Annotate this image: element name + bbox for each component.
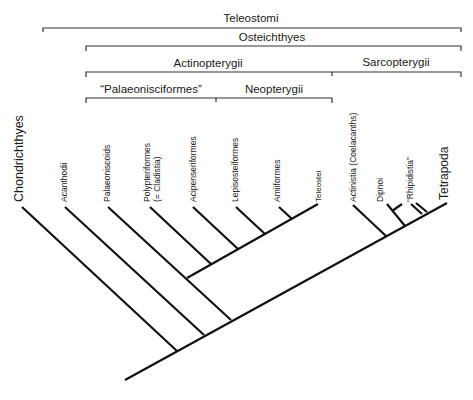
branch-actinistia — [353, 205, 386, 236]
bracket-actinopterygii-sarcopterygii — [86, 72, 461, 77]
branch-lepisosteiformes — [236, 207, 265, 234]
taxon-tetrapoda: Tetrapoda — [437, 146, 451, 200]
branch-amiiformes — [279, 207, 292, 219]
tree-branches — [22, 203, 447, 380]
label-teleostomi: Teleostomi — [224, 12, 279, 24]
taxon-polypteriformes-cladistia: (= Cladistia) — [152, 156, 162, 202]
cladogram: Teleostomi Osteichthyes Actinopterygii S… — [0, 0, 473, 400]
taxon-rhipidistia: “Rhipidistia” — [405, 157, 415, 202]
bracket-palaeonisciformes-neopterygii — [86, 98, 332, 103]
taxon-acipenseriformes: Acipenseriformes — [188, 136, 198, 202]
label-palaeonisciformes: “Palaeonisciformes” — [100, 83, 202, 95]
taxon-actinistia: Actinistia (Coelacanths) — [348, 113, 358, 202]
bracket-osteichthyes — [86, 46, 461, 51]
branch-neopterygii-spine — [187, 204, 318, 278]
taxon-chondrichthyes: Chondrichthyes — [12, 115, 26, 202]
branch-dipnoi-sub — [392, 204, 402, 211]
branch-chondrichthyes — [22, 207, 177, 351]
label-sarcopterygii: Sarcopterygii — [362, 56, 429, 68]
taxon-dipnoi: Dipnoi — [375, 178, 385, 202]
branch-acipenseriformes — [193, 207, 238, 249]
label-actinopterygii: Actinopterygii — [173, 57, 242, 69]
branch-acanthodii — [65, 207, 204, 335]
taxon-palaeoniscoids: Palaeoniscoids — [102, 145, 112, 202]
taxon-amiiformes: Amiiformes — [272, 159, 282, 202]
taxon-teleostei: Teleostei — [314, 170, 323, 202]
taxon-polypteriformes: Polypteriformes — [142, 143, 152, 202]
label-neopterygii: Neopterygii — [245, 83, 303, 95]
taxon-lepisosteiformes: Lepisosteiformes — [230, 138, 240, 202]
label-osteichthyes: Osteichthyes — [239, 31, 306, 43]
taxon-acanthodii: Acanthodii — [59, 162, 69, 202]
